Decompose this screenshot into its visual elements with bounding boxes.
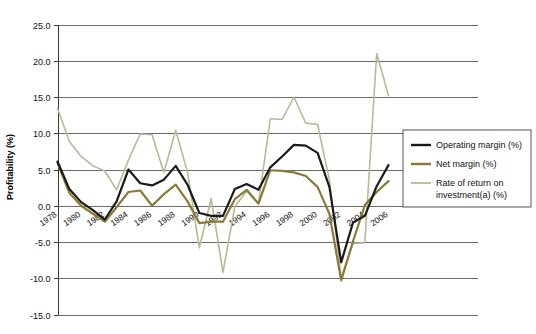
y-tick-label: 10.0 [33, 129, 51, 139]
y-tick-label: -15.0 [30, 311, 51, 321]
y-axis-title-text: Profitability (%) [5, 134, 15, 200]
y-tick-label: -5.0 [35, 238, 51, 248]
legend-label-0: Operating margin (%) [436, 140, 522, 150]
legend-label-1: Net margin (%) [436, 159, 497, 169]
profitability-line-chart: 25.020.015.010.05.00.0-5.0-10.0-15.0 197… [0, 0, 536, 334]
x-tick-label: 1978 [37, 209, 58, 228]
series-line-1 [58, 163, 389, 280]
y-tick-label: 20.0 [33, 57, 51, 67]
y-tick-label: 15.0 [33, 93, 51, 103]
x-tick-label: 2000 [297, 209, 318, 228]
chart-canvas: 25.020.015.010.05.00.0-5.0-10.0-15.0 197… [0, 0, 536, 334]
x-tick-label: 1994 [227, 209, 248, 228]
x-tick-label: 1980 [61, 209, 82, 228]
y-tick-label: 25.0 [33, 21, 51, 31]
y-axis-tick-labels: 25.020.015.010.05.00.0-5.0-10.0-15.0 [30, 21, 51, 321]
x-tick-label: 1998 [274, 209, 295, 228]
series-line-0 [58, 145, 389, 262]
y-tick-label: -10.0 [30, 274, 51, 284]
x-tick-label: 1988 [156, 209, 177, 228]
chart-legend: Operating margin (%)Net margin (%)Rate o… [403, 130, 531, 207]
y-tick-label: 0.0 [38, 202, 51, 212]
legend-label-2: Rate of return on [436, 178, 504, 188]
legend-label-2-line2: investment(a) (%) [436, 190, 507, 200]
x-tick-label: 1986 [132, 209, 153, 228]
x-tick-label: 1996 [250, 209, 271, 228]
data-series [58, 54, 389, 281]
y-axis-tickmarks [54, 26, 58, 316]
x-tick-label: 2006 [368, 209, 389, 228]
y-axis-title: Profitability (%) [5, 134, 15, 200]
y-tick-label: 5.0 [38, 166, 51, 176]
